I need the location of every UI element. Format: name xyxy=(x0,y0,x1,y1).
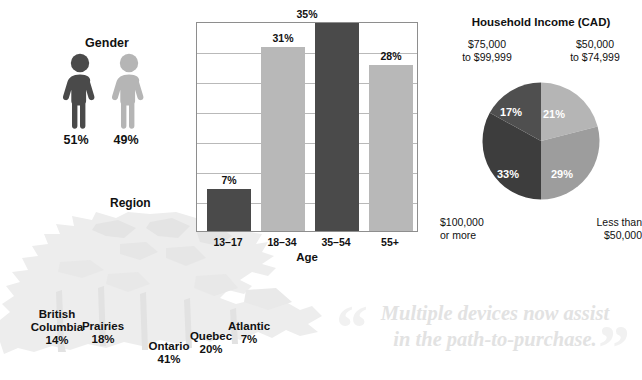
tagline-line1: Multiple devices now assist xyxy=(381,302,609,324)
region-label-atlantic: Atlantic xyxy=(228,320,270,332)
bar-55-plus xyxy=(369,65,413,231)
infographic-canvas: Gender 51% 49% Region British Columbia xyxy=(0,0,642,380)
pie-value-50000-74999: 21% xyxy=(543,108,565,120)
tagline-text: Multiple devices now assist in the path-… xyxy=(352,300,638,352)
region-value-prairies: 18% xyxy=(91,333,114,345)
bar-13-17 xyxy=(207,189,251,231)
gender-section: Gender 51% 49% xyxy=(52,36,162,161)
bar-axis-label-age: Age xyxy=(196,251,418,263)
pie-corner-bottom-left-line1: $100,000 xyxy=(440,216,484,228)
pie-value-100000-or-more: 33% xyxy=(497,168,519,180)
pie-corner-top-left-line1: $75,000 xyxy=(468,38,506,50)
pie-value-75000-99999: 17% xyxy=(500,106,522,118)
pie-corner-label-top-right: $50,000 to $74,999 xyxy=(552,38,638,64)
bar-slot-18-34: 31% xyxy=(261,23,305,231)
gender-title: Gender xyxy=(52,36,162,50)
region-item-prairies: Prairies 18% xyxy=(68,320,138,346)
male-figure-icon xyxy=(56,53,104,131)
household-income-pie-section: Household Income (CAD) $75,000 to $99,99… xyxy=(440,16,642,274)
pie-corner-top-right-line2: to $74,999 xyxy=(570,51,620,63)
bar-18-34 xyxy=(261,47,305,231)
pie-corner-top-right-line1: $50,000 xyxy=(576,38,614,50)
bar-value-13-17: 7% xyxy=(207,174,251,186)
female-figure-icon xyxy=(105,53,153,131)
pie-value-less-than-50000: 29% xyxy=(551,168,573,180)
pie-corner-label-top-left: $75,000 to $99,999 xyxy=(446,38,528,64)
pie-corner-top-left-line2: to $99,999 xyxy=(462,51,512,63)
bar-value-18-34: 31% xyxy=(261,32,305,44)
pie-chart-graphic xyxy=(482,82,600,200)
region-label-british-columbia-line1: British xyxy=(39,308,75,320)
bar-slot-35-54 xyxy=(315,23,359,231)
male-percentage: 51% xyxy=(52,133,100,147)
region-title: Region xyxy=(110,196,151,210)
region-item-atlantic: Atlantic 7% xyxy=(218,320,280,346)
region-value-atlantic: 7% xyxy=(241,333,258,345)
bar-slot-55-plus: 28% xyxy=(369,23,413,231)
pie-title: Household Income (CAD) xyxy=(440,16,642,28)
bar-slot-13-17: 7% xyxy=(207,23,251,231)
bar-xtick-55-plus: 55+ xyxy=(358,236,422,248)
bar-value-35-54: 35% xyxy=(196,8,418,20)
region-value-british-columbia: 14% xyxy=(45,334,68,346)
bar-35-54 xyxy=(315,23,359,231)
pie-corner-label-bottom-left: $100,000 or more xyxy=(440,216,526,242)
bar-value-55-plus: 28% xyxy=(369,50,413,62)
age-bar-chart: 7% 31% 28% xyxy=(196,22,418,232)
pie-corner-label-bottom-right: Less than $50,000 xyxy=(560,216,642,242)
tagline-line2: in the path-to-purchase. xyxy=(393,328,596,350)
pie-corner-bottom-right-line2: $50,000 xyxy=(604,229,642,241)
region-label-prairies: Prairies xyxy=(82,320,124,332)
pie-corner-bottom-left-line2: or more xyxy=(440,229,476,241)
pie-corner-bottom-right-line1: Less than xyxy=(596,216,642,228)
female-percentage: 49% xyxy=(102,133,150,147)
